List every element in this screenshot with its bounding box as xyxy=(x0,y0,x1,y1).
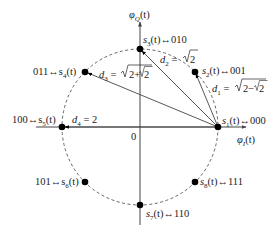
distance-label-d2: d2 = 2 xyxy=(160,50,198,68)
svg-text:d2 =: d2 = xyxy=(160,54,177,68)
svg-text:d1 =: d1 = xyxy=(212,83,229,97)
label-s1: s1(t)↔000 xyxy=(222,115,266,129)
svg-text:2: 2 xyxy=(259,83,264,94)
svg-text:2: 2 xyxy=(144,69,149,80)
label-s5: 100↔s5(t) xyxy=(12,114,56,128)
label-s3: s3(t)↔010 xyxy=(143,34,187,48)
distance-label-d3: d3 = 2+ 2 xyxy=(99,65,153,83)
svg-text:2−: 2− xyxy=(243,83,254,94)
origin-label: 0 xyxy=(131,131,136,142)
svg-text:d3 =: d3 = xyxy=(99,69,116,83)
svg-text:d4 = 2: d4 = 2 xyxy=(72,114,97,128)
point-s2 xyxy=(192,69,199,76)
point-s6 xyxy=(82,179,89,186)
label-s7: s7(t)↔110 xyxy=(146,208,189,222)
distance-label-d4: d4 = 2 xyxy=(72,114,97,128)
distance-line-d2 xyxy=(142,51,218,127)
point-s4 xyxy=(82,69,89,76)
x-axis-label: φI(t) xyxy=(237,134,256,148)
svg-text:2: 2 xyxy=(190,54,195,65)
point-s7 xyxy=(137,202,144,209)
label-s6: 101↔s6(t) xyxy=(35,176,79,190)
point-s8 xyxy=(192,179,199,186)
label-s2: s2(t)↔001 xyxy=(202,65,246,79)
label-s4: 011↔s4(t) xyxy=(33,66,77,80)
point-s3 xyxy=(137,46,144,53)
8psk-constellation-diagram: φQ(t) φI(t) 0 s1(t)↔000 s2(t)↔001 s3(t)↔… xyxy=(0,0,276,238)
point-s5 xyxy=(59,124,66,131)
y-axis-label: φQ(t) xyxy=(129,9,150,23)
label-s8: s8(t)↔111 xyxy=(200,176,243,190)
svg-text:2+: 2+ xyxy=(129,69,140,80)
distance-label-d1: d1 = 2− 2 xyxy=(212,79,268,97)
point-s1 xyxy=(215,124,222,131)
